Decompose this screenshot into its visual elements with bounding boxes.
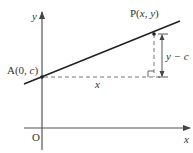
- right-angle-marker: [148, 71, 154, 77]
- vertical-distance-label: y − c: [165, 50, 189, 62]
- point-P: [152, 32, 156, 36]
- origin-label: O: [32, 131, 40, 143]
- point-P-label: P(x, y): [130, 7, 159, 20]
- y-axis-label: y: [31, 10, 37, 22]
- horizontal-distance-label: x: [94, 78, 100, 90]
- coordinate-diagram: y x O A(0, c) P(x, y) x y − c: [0, 0, 193, 153]
- line-AP: [24, 21, 180, 84]
- point-A: [40, 75, 44, 79]
- x-axis-label: x: [183, 133, 189, 145]
- point-A-label: A(0, c): [7, 64, 39, 77]
